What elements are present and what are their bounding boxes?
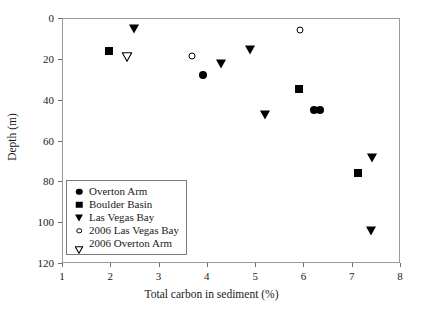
data-point xyxy=(122,48,133,58)
x-tick-mark xyxy=(352,263,353,267)
data-point xyxy=(245,45,255,54)
y-tick-mark xyxy=(58,100,62,101)
x-tick-label: 4 xyxy=(204,271,210,282)
data-point xyxy=(189,52,196,59)
y-tick-mark xyxy=(58,18,62,19)
data-point xyxy=(105,47,113,55)
y-tick-mark xyxy=(58,59,62,60)
x-tick-mark xyxy=(159,263,160,267)
x-tick-mark xyxy=(303,263,304,267)
data-point xyxy=(367,153,377,162)
y-tick-label: 20 xyxy=(14,53,54,64)
y-tick-label: 100 xyxy=(14,217,54,228)
legend-item: 2006 Las Vegas Bay xyxy=(72,224,179,237)
y-tick-label: 80 xyxy=(14,176,54,187)
chart-legend: Overton ArmBoulder BasinLas Vegas Bay200… xyxy=(66,180,187,255)
legend-item: Boulder Basin xyxy=(72,198,179,211)
data-point xyxy=(354,169,362,177)
x-tick-mark xyxy=(400,263,401,267)
legend-item: Overton Arm xyxy=(72,185,179,198)
y-axis-title: Depth (m) xyxy=(6,87,18,187)
data-point xyxy=(297,27,304,34)
legend-marker-square-filled-icon xyxy=(72,198,86,211)
x-tick-label: 8 xyxy=(397,271,403,282)
legend-marker-triangle-down-open-icon xyxy=(72,237,86,250)
x-tick-label: 5 xyxy=(252,271,258,282)
y-tick-label: 60 xyxy=(14,135,54,146)
x-tick-label: 6 xyxy=(301,271,307,282)
data-point xyxy=(129,25,139,34)
legend-marker-triangle-down-filled-icon xyxy=(72,211,86,224)
legend-item-label: Overton Arm xyxy=(89,185,147,198)
y-tick-mark xyxy=(58,141,62,142)
y-tick-label: 40 xyxy=(14,94,54,105)
x-tick-mark xyxy=(110,263,111,267)
data-point xyxy=(199,71,207,79)
y-tick-mark xyxy=(58,222,62,223)
legend-item-label: Las Vegas Bay xyxy=(89,211,154,224)
y-tick-mark xyxy=(58,181,62,182)
data-point xyxy=(366,227,376,236)
x-tick-label: 1 xyxy=(59,271,65,282)
legend-item-label: 2006 Overton Arm xyxy=(89,237,172,250)
x-tick-label: 3 xyxy=(156,271,162,282)
x-tick-label: 2 xyxy=(108,271,114,282)
data-point xyxy=(260,111,270,120)
x-tick-mark xyxy=(207,263,208,267)
legend-item-label: Boulder Basin xyxy=(89,198,152,211)
x-tick-mark xyxy=(255,263,256,267)
data-point xyxy=(216,59,226,68)
legend-item: 2006 Overton Arm xyxy=(72,237,179,250)
legend-marker-circle-filled-icon xyxy=(72,185,86,198)
y-tick-label: 120 xyxy=(14,258,54,269)
legend-item-label: 2006 Las Vegas Bay xyxy=(89,224,179,237)
x-tick-mark xyxy=(62,263,63,267)
legend-marker-circle-open-icon xyxy=(72,224,86,237)
scatter-chart-figure: 020406080100120 12345678 Total carbon in… xyxy=(0,0,423,313)
data-point xyxy=(316,106,324,114)
x-axis-title: Total carbon in sediment (%) xyxy=(0,288,423,300)
y-tick-label: 0 xyxy=(14,13,54,24)
legend-item: Las Vegas Bay xyxy=(72,211,179,224)
data-point xyxy=(295,85,303,93)
x-tick-label: 7 xyxy=(349,271,355,282)
